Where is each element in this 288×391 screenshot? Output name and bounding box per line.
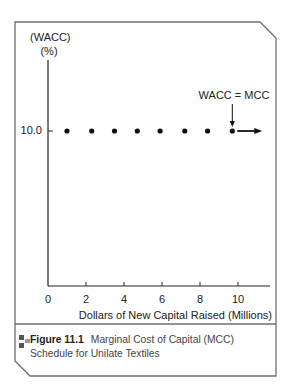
data-point bbox=[182, 128, 187, 133]
y-axis-title-line1: (WACC) bbox=[30, 31, 68, 43]
continuation-arrow-head bbox=[254, 128, 262, 134]
x-tick-label-4: 4 bbox=[114, 293, 134, 305]
figure-caption-icon bbox=[19, 335, 30, 349]
frame-border bbox=[15, 22, 276, 376]
figure-caption: Figure 11.1Marginal Cost of Capital (MCC… bbox=[30, 333, 270, 361]
data-point bbox=[158, 128, 163, 133]
data-point bbox=[89, 128, 94, 133]
data-point bbox=[64, 128, 69, 133]
data-point bbox=[135, 128, 140, 133]
y-tick-label-10: 10.0 bbox=[14, 124, 42, 136]
data-point bbox=[205, 128, 210, 133]
figure-number: Figure 11.1 bbox=[30, 334, 84, 345]
annotation-wacc-equals-mcc: WACC = MCC bbox=[196, 89, 272, 101]
data-point bbox=[112, 128, 117, 133]
x-tick-label-10: 10 bbox=[228, 293, 248, 305]
x-tick-label-0: 0 bbox=[38, 293, 58, 305]
x-tick-label-6: 6 bbox=[152, 293, 172, 305]
data-point bbox=[230, 128, 235, 133]
x-tick-label-2: 2 bbox=[76, 293, 96, 305]
x-axis-title: Dollars of New Capital Raised (Millions) bbox=[60, 309, 272, 321]
y-axis-title-line2: (%) bbox=[30, 45, 68, 57]
x-tick-label-8: 8 bbox=[190, 293, 210, 305]
annotation-arrow-head bbox=[230, 121, 235, 127]
